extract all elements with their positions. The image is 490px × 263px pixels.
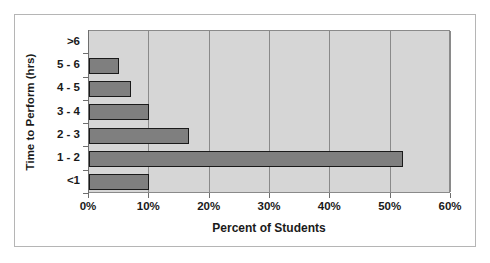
x-axis-tick	[88, 193, 89, 198]
x-axis-label: 50%	[365, 200, 415, 212]
y-axis-title: Time to Perform (hrs)	[24, 30, 36, 195]
chart-figure: >65 - 64 - 53 - 42 - 31 - 2<1 0%10%20%30…	[0, 0, 490, 263]
y-axis-label: 5 - 6	[57, 59, 80, 70]
x-axis-tick	[450, 193, 451, 198]
plot-area	[88, 30, 450, 193]
bar	[89, 128, 189, 144]
x-axis-tick	[390, 193, 391, 198]
bar	[89, 81, 131, 97]
y-axis-tick	[83, 53, 88, 54]
x-axis-label: 10%	[123, 200, 173, 212]
y-axis-tick	[83, 123, 88, 124]
y-axis-label: 3 - 4	[57, 106, 80, 117]
bar-row	[89, 124, 449, 147]
x-axis-label: 60%	[425, 200, 475, 212]
bars-layer	[89, 31, 449, 192]
y-axis-tick	[83, 146, 88, 147]
bar-row	[89, 171, 449, 194]
y-axis-labels: >65 - 64 - 53 - 42 - 31 - 2<1	[0, 0, 80, 263]
bar-row	[89, 78, 449, 101]
x-axis-label: 20%	[184, 200, 234, 212]
bar-row	[89, 147, 449, 170]
bar	[89, 104, 149, 120]
gridline-60%	[450, 31, 451, 192]
y-axis-label: 2 - 3	[57, 129, 80, 140]
y-axis-label: <1	[67, 175, 80, 186]
x-axis-title: Percent of Students	[88, 221, 450, 235]
y-axis-label: >6	[67, 36, 80, 47]
y-axis-tick	[83, 170, 88, 171]
bar	[89, 174, 149, 190]
x-axis-tick	[148, 193, 149, 198]
bar-row	[89, 31, 449, 54]
x-axis-label: 30%	[244, 200, 294, 212]
x-axis-label: 0%	[63, 200, 113, 212]
bar	[89, 151, 403, 167]
bar-row	[89, 54, 449, 77]
y-axis-tick	[83, 77, 88, 78]
x-axis-label: 40%	[304, 200, 354, 212]
y-axis-label: 1 - 2	[57, 152, 80, 163]
x-axis-tick	[209, 193, 210, 198]
y-axis-line	[88, 30, 89, 193]
y-axis-tick	[83, 100, 88, 101]
bar-row	[89, 101, 449, 124]
x-axis-tick	[329, 193, 330, 198]
bar	[89, 58, 119, 74]
x-axis-tick	[269, 193, 270, 198]
y-axis-label: 4 - 5	[57, 82, 80, 93]
